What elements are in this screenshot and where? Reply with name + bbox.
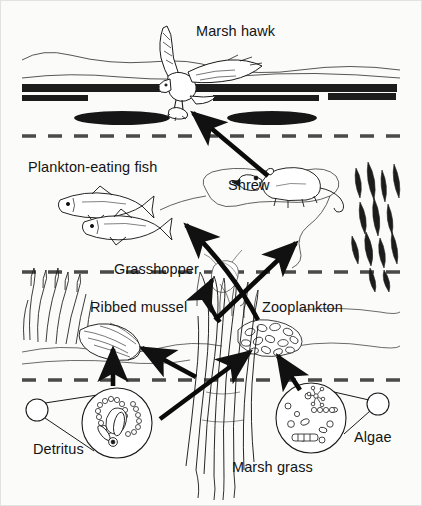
label-ribbed-mussel: Ribbed mussel <box>90 300 187 315</box>
label-marsh-hawk: Marsh hawk <box>196 24 275 39</box>
label-plankton-eating-fish: Plankton-eating fish <box>28 160 157 175</box>
label-algae: Algae <box>354 430 392 445</box>
salt-marsh-food-web-figure: Marsh hawk Plankton-eating fish Shrew Gr… <box>0 0 422 506</box>
label-grasshopper: Grasshopper <box>114 262 199 277</box>
label-shrew: Shrew <box>228 178 270 193</box>
label-zooplankton: Zooplankton <box>262 300 343 315</box>
label-detritus: Detritus <box>33 442 84 457</box>
label-marsh-grass: Marsh grass <box>232 460 313 475</box>
